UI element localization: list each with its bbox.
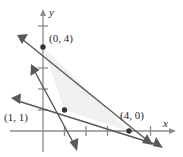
y-axis-arrow-icon bbox=[40, 9, 46, 16]
coordinate-plane-figure: (0, 4) (1, 1) (4, 0) x y bbox=[0, 0, 183, 157]
line2-arrow-right-icon bbox=[153, 137, 163, 148]
point-label-4-0: (4, 0) bbox=[120, 110, 144, 121]
x-axis-arrow-icon bbox=[169, 128, 176, 134]
y-axis-label: y bbox=[49, 7, 54, 18]
vertex-marker-1-1 bbox=[62, 107, 67, 112]
line1-arrow-up-icon bbox=[31, 64, 40, 76]
line-through-0-4-and-4-0 bbox=[17, 34, 153, 145]
shaded-region-feasible-triangle bbox=[43, 47, 129, 131]
graph-canvas bbox=[0, 0, 183, 157]
point-label-0-4: (0, 4) bbox=[49, 33, 73, 44]
x-axis bbox=[10, 126, 176, 136]
vertex-marker-4-0 bbox=[126, 128, 131, 133]
line1-arrow-down-icon bbox=[70, 138, 79, 151]
point-label-1-1: (1, 1) bbox=[4, 112, 28, 123]
line3-arrow-downright-icon bbox=[142, 134, 153, 145]
line2-arrow-left-icon bbox=[11, 94, 21, 105]
vertex-marker-0-4 bbox=[40, 44, 45, 49]
x-axis-label: x bbox=[163, 118, 168, 129]
